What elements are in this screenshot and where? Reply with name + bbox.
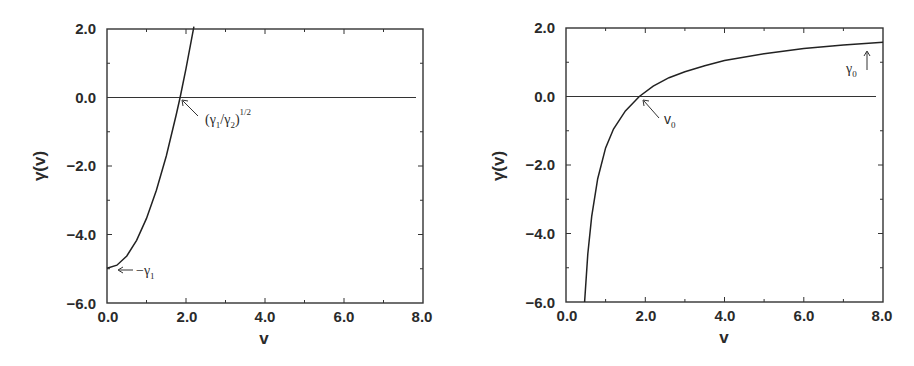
svg-text:2.0: 2.0 [636,307,657,324]
svg-text:2.0: 2.0 [534,19,555,36]
svg-text:8.0: 8.0 [412,308,433,325]
svg-text:0.0: 0.0 [534,88,555,105]
svg-text:−4.0: −4.0 [66,226,96,243]
svg-text:0.0: 0.0 [557,307,578,324]
right-x-ticks [606,28,844,302]
right-y-axis-label: γ(v) [489,151,508,181]
right-crossing-annotation: v0 [643,100,676,130]
right-y-ticks [566,62,883,268]
left-plot-frame [107,29,423,303]
svg-text:γ0: γ0 [845,61,857,79]
right-plot-frame [566,28,883,302]
left-x-ticks [147,29,384,303]
svg-text:−γ1: −γ1 [136,263,155,281]
svg-text:8.0: 8.0 [872,307,893,324]
left-y-axis-label: γ(v) [30,151,49,181]
svg-text:0.0: 0.0 [75,89,96,106]
svg-text:−4.0: −4.0 [525,225,555,242]
svg-text:4.0: 4.0 [715,307,736,324]
right-x-axis-label: v [719,328,729,347]
svg-text:6.0: 6.0 [334,308,355,325]
svg-text:−2.0: −2.0 [66,157,96,174]
right-y-tick-labels: 2.0 0.0 −2.0 −4.0 −6.0 [525,19,555,311]
left-chart: (γ1/γ2)1/2 −γ1 2.0 0.0 −2.0 −4.0 −6.0 0.… [30,20,432,348]
left-crossing-annotation: (γ1/γ2)1/2 [182,100,251,130]
right-asymptote-annotation: γ0 [845,51,870,79]
svg-text:−2.0: −2.0 [525,156,555,173]
right-x-tick-labels: 0.0 2.0 4.0 6.0 8.0 [557,307,893,324]
left-curve-line [107,27,194,269]
figure: (γ1/γ2)1/2 −γ1 2.0 0.0 −2.0 −4.0 −6.0 0.… [0,0,914,366]
left-x-tick-labels: 0.0 2.0 4.0 6.0 8.0 [98,308,433,325]
svg-text:(γ1/γ2)1/2: (γ1/γ2)1/2 [205,107,251,130]
left-y-ticks [107,63,423,269]
svg-text:−6.0: −6.0 [66,295,96,312]
svg-text:4.0: 4.0 [255,308,276,325]
svg-text:2.0: 2.0 [75,20,96,37]
svg-text:6.0: 6.0 [794,307,815,324]
right-chart: v0 γ0 2.0 0.0 −2.0 −4.0 −6.0 0.0 2.0 4.0… [489,19,892,347]
svg-text:−6.0: −6.0 [525,294,555,311]
left-intercept-annotation: −γ1 [118,263,155,281]
svg-text:v0: v0 [664,111,676,130]
left-x-axis-label: v [259,329,269,348]
svg-text:0.0: 0.0 [98,308,119,325]
svg-text:2.0: 2.0 [177,308,198,325]
right-curve [585,42,883,302]
left-y-tick-labels: 2.0 0.0 −2.0 −4.0 −6.0 [66,20,96,312]
